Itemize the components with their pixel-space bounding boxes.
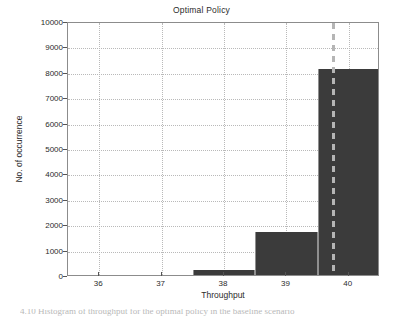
y-tick-mark: [63, 22, 67, 23]
y-tick-mark: [63, 174, 67, 175]
y-tick-label: 5000: [17, 145, 63, 154]
y-tick-label: 3000: [17, 195, 63, 204]
x-tick-label: 37: [141, 279, 181, 288]
y-tick-mark: [63, 225, 67, 226]
figure-caption-strip: 4.10 Histogram of throughput for the opt…: [0, 309, 403, 318]
y-tick-mark: [63, 251, 67, 252]
figure-caption: 4.10 Histogram of throughput for the opt…: [20, 309, 294, 316]
y-tick-label: 8000: [17, 68, 63, 77]
y-tick-mark: [63, 124, 67, 125]
x-tick-mark: [161, 272, 162, 276]
y-tick-mark: [63, 200, 67, 201]
x-tick-mark: [223, 272, 224, 276]
y-tick-label: 6000: [17, 119, 63, 128]
x-tick-label: 36: [78, 279, 118, 288]
vertical-gridline: [224, 23, 225, 275]
optimal-threshold-marker: [332, 23, 335, 275]
y-tick-label: 0: [17, 272, 63, 281]
plot-area: [67, 22, 379, 276]
y-tick-mark: [63, 98, 67, 99]
y-tick-label: 7000: [17, 94, 63, 103]
chart-title: Optimal Policy: [0, 5, 403, 15]
y-tick-mark: [63, 73, 67, 74]
bar: [255, 232, 317, 275]
x-tick-label: 38: [203, 279, 243, 288]
x-tick-mark: [348, 272, 349, 276]
figure-container: Optimal Policy No. of occurrence 0100020…: [0, 0, 403, 318]
y-tick-mark: [63, 276, 67, 277]
y-tick-mark: [63, 47, 67, 48]
y-tick-label: 9000: [17, 43, 63, 52]
y-tick-label: 10000: [17, 18, 63, 27]
vertical-gridline: [99, 23, 100, 275]
y-tick-label: 4000: [17, 170, 63, 179]
y-tick-mark: [63, 149, 67, 150]
x-tick-label: 40: [328, 279, 368, 288]
x-tick-mark: [98, 272, 99, 276]
bar: [318, 69, 379, 275]
x-tick-mark: [285, 272, 286, 276]
x-axis-title: Throughput: [67, 290, 379, 300]
y-tick-label: 2000: [17, 221, 63, 230]
vertical-gridline: [162, 23, 163, 275]
x-tick-label: 39: [265, 279, 305, 288]
y-tick-label: 1000: [17, 246, 63, 255]
